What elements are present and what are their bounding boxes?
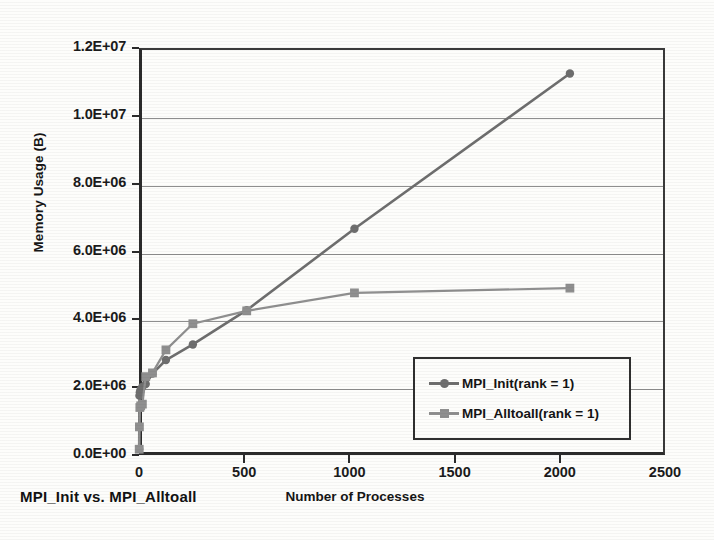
data-point bbox=[350, 288, 359, 297]
legend-entry-mpi-alltoall: MPI_Alltoall(rank = 1) bbox=[415, 398, 629, 428]
legend-label: MPI_Init(rank = 1) bbox=[462, 376, 574, 391]
data-point bbox=[242, 306, 251, 315]
data-point bbox=[189, 340, 197, 348]
data-point bbox=[138, 400, 147, 409]
data-point bbox=[162, 345, 171, 354]
data-point bbox=[350, 225, 358, 233]
legend-entry-mpi-init: MPI_Init(rank = 1) bbox=[415, 368, 629, 398]
chart-legend: MPI_Init(rank = 1) MPI_Alltoall(rank = 1… bbox=[413, 357, 631, 440]
legend-marker-circle-icon bbox=[429, 377, 459, 389]
series-layer bbox=[0, 0, 714, 540]
chart-figure: 0.0E+002.0E+064.0E+066.0E+068.0E+061.0E+… bbox=[0, 0, 714, 540]
data-point bbox=[162, 356, 170, 364]
data-point bbox=[566, 69, 574, 77]
data-point bbox=[135, 445, 144, 454]
data-point bbox=[566, 284, 575, 293]
data-point bbox=[135, 422, 144, 431]
legend-label: MPI_Alltoall(rank = 1) bbox=[462, 406, 599, 421]
legend-marker-square-icon bbox=[429, 407, 459, 419]
data-point bbox=[188, 319, 197, 328]
data-point bbox=[148, 369, 157, 378]
